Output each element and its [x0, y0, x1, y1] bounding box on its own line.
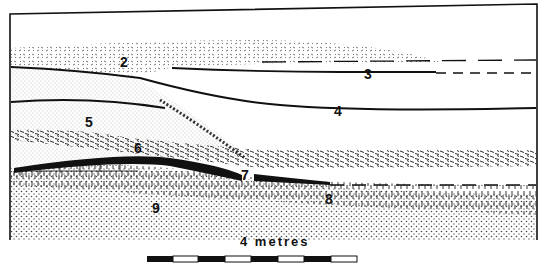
- label-layer-5: 5: [85, 114, 93, 130]
- label-layer-7: 7: [241, 167, 249, 183]
- label-layer-9: 9: [152, 200, 160, 216]
- label-layer-2: 2: [120, 54, 128, 70]
- geological-section-diagram: 2 3 4 5 6 7 8 9 4 metres: [0, 0, 544, 269]
- label-layer-3: 3: [364, 66, 372, 82]
- label-layer-6: 6: [134, 140, 142, 156]
- label-layer-4: 4: [334, 103, 342, 119]
- scale-bar-label: 4 metres: [240, 234, 309, 249]
- label-layer-8: 8: [325, 191, 333, 207]
- horizon-3: [172, 68, 436, 72]
